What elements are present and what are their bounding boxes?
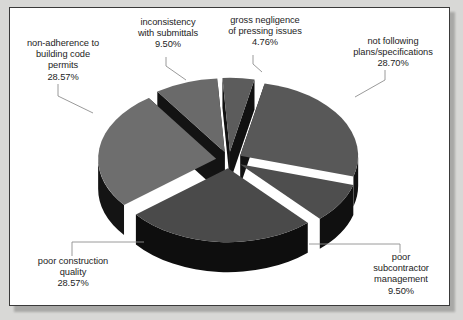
slice-label-line: poor: [345, 252, 457, 263]
slice-label-line: building code: [4, 49, 122, 60]
slice-value-label: 4.76%: [209, 37, 321, 48]
slice-value-label: 28.70%: [329, 58, 457, 69]
leader-line-inconsistency-with-submittals: [166, 57, 186, 80]
slice-label-line: inconsistency: [114, 17, 222, 28]
slice-value-label: 9.50%: [345, 286, 457, 297]
slice-label-line: management: [345, 274, 457, 285]
slice-label-line: quality: [13, 267, 133, 278]
slice-label-line: non-adherence to: [4, 38, 122, 49]
slice-value-label: 28.57%: [4, 72, 122, 83]
slice-label-gross-negligence-pressing-issues: gross negligenceof pressing issues4.76%: [209, 15, 321, 49]
slice-value-label: 9.50%: [114, 39, 222, 50]
pie-slices-layer: [98, 78, 358, 272]
slice-label-non-adherence-building-code-permits: non-adherence tobuilding codepermits28.5…: [4, 38, 122, 83]
slice-label-line: permits: [4, 60, 122, 71]
slice-label-line: plans/specifications: [329, 47, 457, 58]
slice-label-line: with submittals: [114, 28, 222, 39]
leader-line-gross-negligence-pressing-issues: [253, 55, 262, 72]
slice-label-line: subcontractor: [345, 263, 457, 274]
slice-label-line: gross negligence: [209, 15, 321, 26]
slice-label-line: not following: [329, 36, 457, 47]
slice-label-poor-construction-quality: poor constructionquality28.57%: [13, 256, 133, 290]
slice-label-inconsistency-with-submittals: inconsistencywith submittals9.50%: [114, 17, 222, 51]
leader-line-not-following-plans: [355, 70, 385, 97]
slice-label-line: of pressing issues: [209, 26, 321, 37]
leader-line-poor-construction-quality: [72, 242, 144, 256]
leader-line-non-adherence-building-code-permits: [58, 84, 93, 113]
slice-label-poor-subcontractor-management: poorsubcontractormanagement9.50%: [345, 252, 457, 297]
slice-value-label: 28.57%: [13, 278, 133, 289]
slice-label-not-following-plans: not followingplans/specifications28.70%: [329, 36, 457, 70]
slice-top-not-following-plans: [240, 83, 358, 176]
chart-page: non-adherence tobuilding codepermits28.5…: [0, 0, 463, 320]
slice-label-line: poor construction: [13, 256, 133, 267]
